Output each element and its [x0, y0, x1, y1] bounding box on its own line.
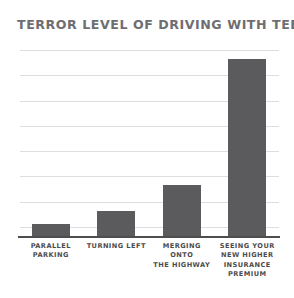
bars-layer: [18, 45, 280, 238]
x-axis-line: [18, 236, 280, 238]
bar-label: PARALLELPARKING: [18, 242, 84, 296]
bar: [97, 211, 135, 238]
bar-label-line: PARALLEL: [19, 242, 83, 251]
x-axis-labels: PARALLELPARKINGTURNING LEFTMERGING ONTOT…: [18, 242, 280, 296]
bar-label-line: PREMIUM: [216, 270, 280, 279]
chart-title: TERROR LEVEL OF DRIVING WITH TEENS: [17, 17, 279, 32]
bar-label-line: PARKING: [19, 251, 83, 260]
bar: [163, 185, 201, 238]
bar-label-line: INSURANCE: [216, 261, 280, 270]
bar-label-line: NEW HIGHER: [216, 251, 280, 260]
bar-label-line: TURNING LEFT: [85, 242, 149, 251]
bar-label-line: THE HIGHWAY: [150, 261, 214, 270]
plot-area: [18, 45, 280, 238]
bar-label: MERGING ONTOTHE HIGHWAY: [149, 242, 215, 296]
bar-label-line: MERGING ONTO: [150, 242, 214, 261]
bar-label: SEEING YOURNEW HIGHERINSURANCEPREMIUM: [215, 242, 281, 296]
bar-label-line: SEEING YOUR: [216, 242, 280, 251]
bar-chart-card: TERROR LEVEL OF DRIVING WITH TEENS PARAL…: [0, 0, 294, 298]
bar: [228, 59, 266, 238]
bar-label: TURNING LEFT: [84, 242, 150, 296]
